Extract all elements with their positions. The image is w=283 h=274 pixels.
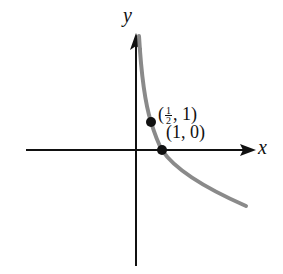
graph-canvas <box>0 0 283 274</box>
y-axis-label: y <box>123 4 132 27</box>
point-label-one-zero: (1, 0) <box>166 122 205 143</box>
point-one-zero <box>157 145 167 155</box>
x-axis <box>26 144 256 156</box>
graph-figure: y x (12, 1) (1, 0) <box>0 0 283 274</box>
point-half-one <box>146 117 156 127</box>
x-axis-label: x <box>258 136 267 159</box>
